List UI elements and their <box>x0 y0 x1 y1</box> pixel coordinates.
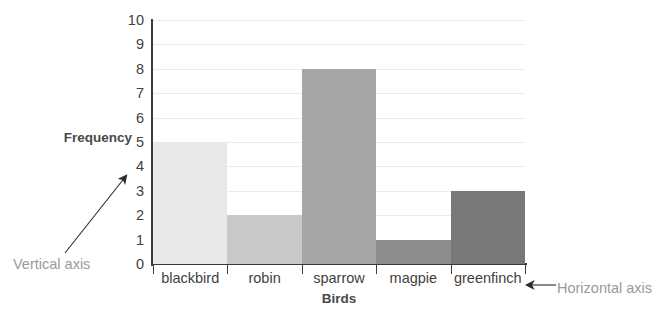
bar-chart: 109876543210 blackbirdrobinsparrowmagpie… <box>0 0 663 324</box>
bar-sparrow <box>302 69 376 264</box>
y-axis-tick-label: 9 <box>114 37 144 52</box>
bar-robin <box>227 215 301 264</box>
category-label-blackbird: blackbird <box>153 271 227 286</box>
plot-area <box>153 20 525 264</box>
y-axis-title: Frequency <box>48 131 132 145</box>
bar-magpie <box>376 240 450 264</box>
category-label-magpie: magpie <box>376 271 450 286</box>
x-axis-tick-mark <box>525 265 526 274</box>
arrow-up-right-icon <box>60 168 136 258</box>
category-label-greenfinch: greenfinch <box>451 271 525 286</box>
arrow-left-icon <box>524 278 558 292</box>
annotation-horizontal-axis: Horizontal axis <box>557 281 652 296</box>
y-axis-tick-label: 7 <box>114 86 144 101</box>
annotation-vertical-axis: Vertical axis <box>13 257 90 272</box>
x-axis-title: Birds <box>273 292 405 306</box>
y-axis-tick-label: 8 <box>114 62 144 77</box>
bar-greenfinch <box>451 191 525 264</box>
bar-blackbird <box>153 142 227 264</box>
category-label-robin: robin <box>227 271 301 286</box>
y-axis-tick-label: 10 <box>114 13 144 28</box>
y-axis-tick-label: 0 <box>114 257 144 272</box>
category-label-sparrow: sparrow <box>302 271 376 286</box>
y-axis-tick-label: 6 <box>114 111 144 126</box>
